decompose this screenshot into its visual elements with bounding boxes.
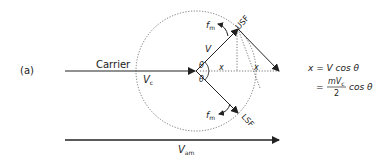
fm-bottom-rotation-icon [219,104,230,114]
vc-label: Vc [143,74,153,86]
equation-equals: = [316,82,324,92]
fm-top-rotation-icon [218,24,228,36]
theta-arc-bottom [205,71,209,80]
vam-label: Vam [178,144,195,156]
fm-bottom-label: fm [206,110,215,121]
fm-top-label: fm [206,20,215,31]
carrier-label: Carrier [96,59,131,70]
panel-label: (a) [20,65,34,76]
theta-arc-top [205,62,209,71]
equation-numerator: mVc [328,77,345,87]
x-inner-label: x [218,63,224,72]
lsf-projection [238,29,260,88]
v-label: V [205,44,212,54]
equation-line-1: x = V cos θ [307,63,360,73]
lsf-label: LSF [240,112,256,129]
theta-bottom-label: θ [199,75,204,84]
equation-tail: cos θ [349,82,373,92]
equation-denominator: 2 [334,89,339,98]
x-outer-label: x [253,63,259,72]
phasor-diagram: (a) Carrier Vc V θ θ x x fm fm USF LSF V… [0,0,389,162]
usf-label: USF [234,13,251,31]
theta-top-label: θ [199,61,204,70]
